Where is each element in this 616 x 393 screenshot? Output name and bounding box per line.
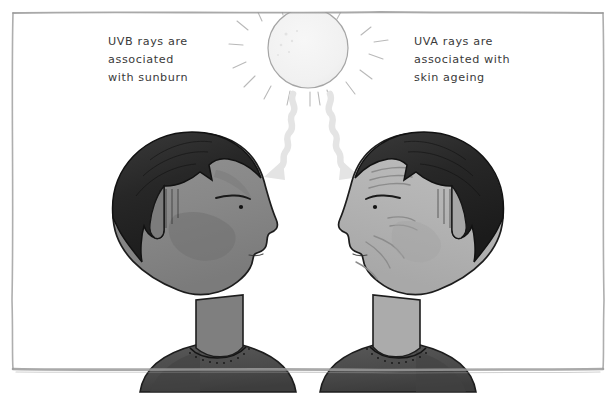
caption-left-line-2: associated <box>108 53 174 66</box>
illustration-canvas: UVB rays are associated with sunburn UVA… <box>0 0 616 393</box>
right-eye <box>373 205 377 209</box>
border-left <box>12 13 13 369</box>
caption-left-line-1: UVB rays are <box>108 35 188 48</box>
caption-right-line-2: associated with <box>414 53 510 66</box>
caption-right-line-1: UVA rays are <box>414 35 493 48</box>
border-top <box>13 12 603 13</box>
left-neck <box>196 295 243 357</box>
border-bottom <box>13 369 603 370</box>
caption-right-line-3: skin ageing <box>414 71 485 84</box>
border-right <box>603 13 604 369</box>
sun-disc <box>268 8 348 88</box>
left-eye <box>239 205 243 209</box>
right-neck <box>373 295 420 357</box>
uv-rays-illustration: UVB rays are associated with sunburn UVA… <box>0 0 616 393</box>
caption-left-line-3: with sunburn <box>108 71 188 84</box>
